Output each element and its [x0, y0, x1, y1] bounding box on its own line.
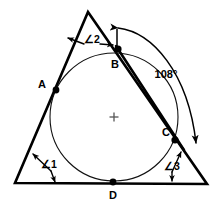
geometry-figure: A B C D ∠1 ∠2 ∠3 108°: [0, 0, 217, 207]
angle2-leader-right: [100, 44, 113, 45]
angle3-label: ∠3: [164, 160, 180, 172]
point-d-dot: [110, 179, 117, 186]
angle1-leader-bottom: [51, 171, 55, 182]
point-c-label: C: [162, 126, 170, 138]
point-a-dot: [53, 87, 60, 94]
arc-108-indicator: [118, 28, 196, 143]
angle1-label: ∠1: [41, 158, 57, 170]
segment-bc: [116, 46, 184, 150]
point-c-dot: [171, 136, 178, 143]
point-a-label: A: [38, 78, 46, 90]
cross-mark-icon: [110, 113, 119, 122]
point-b-label: B: [111, 58, 119, 70]
angle2-label: ∠2: [84, 33, 100, 45]
figure-canvas: A B C D ∠1 ∠2 ∠3 108°: [0, 0, 217, 207]
arc-measure-label: 108°: [155, 68, 178, 80]
point-d-label: D: [109, 189, 117, 201]
point-b-dot: [114, 45, 121, 52]
